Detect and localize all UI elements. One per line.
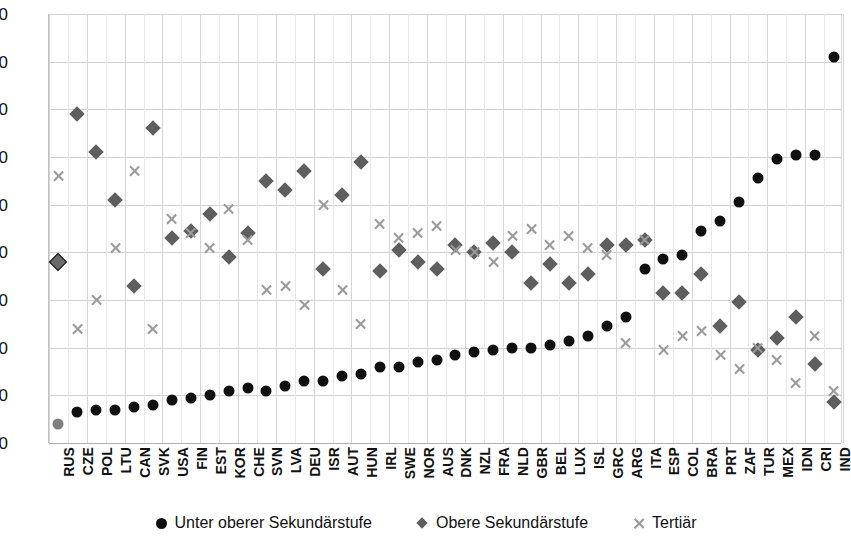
data-point-esp-s0 (658, 254, 669, 265)
data-point-fin-s0 (185, 392, 196, 403)
legend-item-label: Tertiär (652, 515, 696, 531)
data-point-svn-s0 (261, 385, 272, 396)
data-point-nld-s0 (507, 342, 518, 353)
data-point-nld-s1 (504, 245, 520, 261)
data-point-ltu-s1 (107, 192, 123, 208)
data-point-col-s1 (675, 285, 691, 301)
data-point-nzl-s2 (468, 246, 481, 259)
data-point-ita-s0 (639, 264, 650, 275)
legend-item-2[interactable]: Tertiär (632, 515, 696, 531)
data-point-isl-s1 (580, 266, 596, 282)
data-point-ltu-s2 (109, 241, 122, 254)
x-tick-label-dnk: DNK (459, 447, 473, 505)
gridline-x (181, 14, 182, 443)
circle-marker-icon (155, 517, 168, 530)
gridline-x (730, 14, 731, 443)
gridline-x (68, 14, 69, 443)
x-tick-label-swe: SWE (403, 447, 417, 505)
data-point-zaf-s2 (733, 363, 746, 376)
data-point-esp-s2 (657, 344, 670, 357)
data-point-che-s0 (242, 383, 253, 394)
data-point-che-s2 (241, 234, 254, 247)
data-point-bel-s2 (543, 239, 556, 252)
gridline-x (673, 14, 674, 443)
y-tick-label: 50 (0, 197, 8, 214)
data-point-nld-s2 (506, 229, 519, 242)
legend-item-1[interactable]: Obere Sekundärstufe (416, 515, 588, 531)
data-point-kor-s0 (223, 385, 234, 396)
gridline-x (276, 14, 277, 443)
gridline-x (578, 14, 579, 443)
data-point-prt-s0 (715, 216, 726, 227)
x-tick-label-gbr: GBR (535, 447, 549, 505)
gridline-x (711, 14, 712, 443)
x-tick-label-cze: CZE (81, 447, 95, 505)
data-point-can-s0 (129, 402, 140, 413)
data-point-cze-s1 (70, 106, 86, 122)
data-point-rus-s1 (49, 253, 67, 271)
gridline-x (522, 14, 523, 443)
x-tick-label-hun: HUN (365, 447, 379, 505)
y-tick-label: 40 (0, 244, 8, 261)
legend-item-0[interactable]: Unter oberer Sekundärstufe (155, 515, 372, 531)
gridline-y-50 (49, 205, 841, 206)
x-tick-label-lva: LVA (289, 447, 303, 505)
y-tick-label: 0 (0, 435, 8, 452)
x-tick-label-pol: POL (100, 447, 114, 505)
x-tick-label-bra: BRA (705, 447, 719, 505)
data-point-svn-s2 (260, 284, 273, 297)
data-point-col-s0 (677, 249, 688, 260)
horizontal-gridlines (49, 14, 841, 443)
cross-marker-icon (632, 517, 645, 530)
data-point-lva-s0 (280, 380, 291, 391)
data-point-lux-s0 (563, 335, 574, 346)
data-point-usa-s0 (166, 395, 177, 406)
data-point-irl-s0 (374, 361, 385, 372)
x-tick-label-bel: BEL (554, 447, 568, 505)
x-tick-label-est: EST (214, 447, 228, 505)
gridline-x (295, 14, 296, 443)
data-point-lva-s1 (278, 183, 294, 199)
gridline-x (87, 14, 88, 443)
data-point-aut-s2 (336, 284, 349, 297)
gridline-x (616, 14, 617, 443)
y-tick-label: 20 (0, 340, 8, 357)
x-tick-label-ind: IND (838, 447, 851, 505)
gridline-x (465, 14, 466, 443)
data-point-aut-s0 (337, 371, 348, 382)
data-point-arg-s0 (620, 311, 631, 322)
x-tick-label-tur: TUR (762, 447, 776, 505)
data-point-fra-s0 (488, 345, 499, 356)
data-point-grc-s2 (600, 248, 613, 261)
data-point-dnk-s0 (450, 349, 461, 360)
data-point-arg-s2 (619, 336, 632, 349)
gridline-x (692, 14, 693, 443)
x-tick-label-lux: LUX (573, 447, 587, 505)
y-tick-label: 10 (0, 387, 8, 404)
data-point-nzl-s0 (469, 347, 480, 358)
gridline-x (257, 14, 258, 443)
gridline-x (351, 14, 352, 443)
data-point-isr-s2 (317, 198, 330, 211)
data-point-swe-s0 (393, 361, 404, 372)
data-point-arg-s1 (618, 237, 634, 253)
y-tick-label: 90 (0, 6, 8, 23)
data-point-cze-s0 (72, 407, 83, 418)
x-tick-label-irl: IRL (384, 447, 398, 505)
data-point-ind-s0 (828, 51, 839, 62)
legend-item-label: Unter oberer Sekundärstufe (175, 515, 372, 531)
data-point-zaf-s1 (731, 295, 747, 311)
data-point-cri-s0 (809, 149, 820, 160)
data-point-rus-s0 (53, 418, 64, 429)
data-point-deu-s1 (296, 164, 312, 180)
gridline-x (843, 14, 844, 443)
data-point-aus-s0 (431, 354, 442, 365)
x-tick-label-kor: KOR (233, 447, 247, 505)
data-point-aut-s1 (334, 187, 350, 203)
data-point-zaf-s0 (734, 197, 745, 208)
data-point-deu-s2 (298, 298, 311, 311)
data-point-kor-s1 (221, 249, 237, 265)
x-tick-label-aus: AUS (441, 447, 455, 505)
gridline-y-80 (49, 62, 841, 63)
gridline-x (748, 14, 749, 443)
